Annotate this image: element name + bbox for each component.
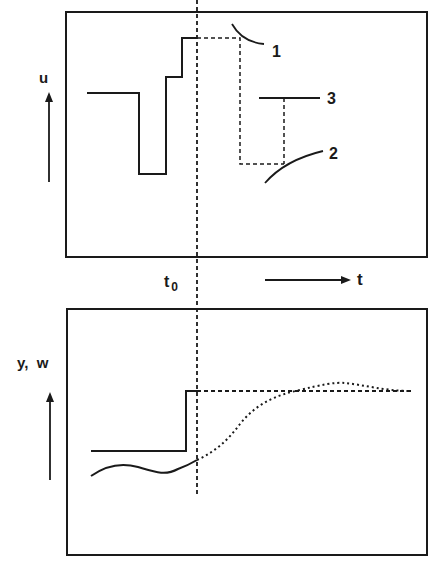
lower-panel-frame: [67, 309, 427, 555]
yw-axis-arrow-icon: [46, 392, 54, 480]
projection-dashed-path: [197, 38, 284, 164]
upper-panel-frame: [66, 12, 427, 257]
t0-label-main: t: [164, 273, 169, 290]
setpoint-w-past: [91, 391, 197, 451]
u-axis-label: u: [39, 70, 48, 85]
t0-label-subscript: 0: [171, 280, 178, 294]
output-y-predicted: [197, 383, 411, 460]
line-3-label: 3: [327, 91, 336, 107]
curve-2: [265, 151, 323, 183]
u-axis-arrow-icon: [45, 92, 53, 182]
t-axis-label: t: [357, 271, 363, 288]
curve-1: [232, 24, 264, 44]
t-axis-arrow-icon: [265, 276, 351, 284]
output-y-past: [91, 460, 197, 476]
past-control-signal: [87, 38, 197, 174]
yw-axis-label: y, w: [17, 355, 48, 370]
curve-1-label: 1: [272, 44, 281, 60]
t0-label: t0: [164, 274, 178, 293]
control-diagram: [0, 0, 436, 565]
curve-2-label: 2: [329, 146, 338, 162]
